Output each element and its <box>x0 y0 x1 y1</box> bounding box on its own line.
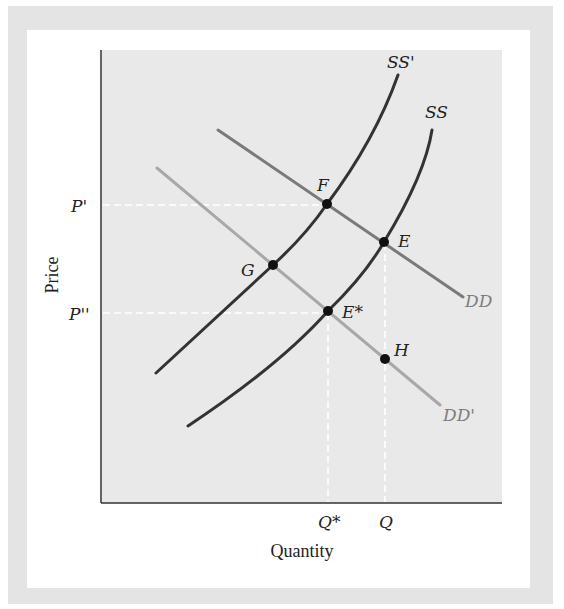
label-ss-prime: SS' <box>387 52 415 72</box>
label-dd-prime: DD' <box>442 405 475 425</box>
label-h: H <box>393 340 410 360</box>
point-e-star <box>323 306 333 316</box>
label-e: E <box>397 231 411 251</box>
point-g <box>268 260 278 270</box>
point-e <box>379 237 389 247</box>
label-ss: SS <box>425 102 448 122</box>
label-g: G <box>241 260 255 280</box>
label-f: F <box>316 175 330 195</box>
y-tick-p-prime: P' <box>70 196 87 216</box>
x-tick-q-star: Q* <box>318 512 341 532</box>
x-axis-title: Quantity <box>271 541 334 561</box>
x-tick-q: Q <box>379 512 393 532</box>
label-e-star: E* <box>341 302 363 322</box>
y-tick-p-double-prime: P'' <box>68 304 90 324</box>
supply-demand-diagram: F E G E* H SS' SS DD DD' P' P'' Q* Q Qua… <box>0 0 564 609</box>
point-f <box>322 199 332 209</box>
label-dd: DD <box>464 291 493 311</box>
point-h <box>380 354 390 364</box>
y-axis-title: Price <box>42 256 62 293</box>
